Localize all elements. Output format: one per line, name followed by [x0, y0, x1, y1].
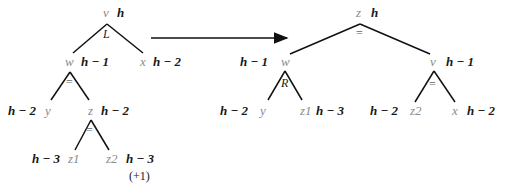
before-z-name: z: [87, 103, 93, 118]
before-w-height: h − 1: [81, 54, 109, 69]
after-w-name: w: [281, 54, 290, 69]
before-y-height: h − 2: [8, 103, 37, 118]
before-z-height: h − 2: [101, 103, 130, 118]
after-x-height: h − 2: [467, 103, 496, 118]
after-w-balance: R: [280, 76, 289, 90]
before-root-height: h: [117, 5, 124, 20]
before-y-name: y: [43, 103, 51, 118]
before-z2-name: z2: [105, 151, 118, 166]
after-x-name: x: [451, 103, 458, 118]
before-edge-w-z: [70, 72, 89, 100]
before-w-name: w: [65, 54, 74, 69]
after-edge-z-v: [360, 24, 430, 54]
after-root-name: z: [355, 5, 361, 20]
after-z2-height: h − 2: [370, 103, 399, 118]
after-edge-z-w: [290, 24, 360, 54]
before-edge-v-w: [73, 24, 107, 53]
rotation-diagram: v h L w h − 1 x h − 2 = h − 2 y z h − 2 …: [0, 0, 509, 186]
before-x-name: x: [139, 54, 146, 69]
after-root-balance: =: [356, 26, 363, 40]
after-v-balance: =: [429, 77, 436, 91]
after-v-name: v: [430, 54, 436, 69]
after-v-height: h − 1: [446, 54, 474, 69]
before-root-name: v: [103, 5, 109, 20]
before-z1-name: z1: [67, 151, 80, 166]
before-tree: v h L w h − 1 x h − 2 = h − 2 y z h − 2 …: [8, 5, 182, 183]
after-w-height: h − 1: [240, 54, 268, 69]
after-z1-name: z1: [299, 103, 312, 118]
before-z1-height: h − 3: [32, 151, 61, 166]
before-root-balance: L: [102, 27, 110, 41]
before-z2-height: h − 3: [126, 151, 155, 166]
after-edge-v-x: [434, 71, 455, 102]
after-z1-height: h − 3: [316, 103, 345, 118]
after-y-name: y: [258, 103, 266, 118]
after-y-height: h − 2: [220, 103, 249, 118]
after-tree: z h = h − 1 w v h − 1 R h − 2 y z1 h − 3…: [220, 5, 496, 118]
after-z2-name: z2: [409, 103, 422, 118]
before-edge-z-z2: [91, 120, 109, 150]
before-z-balance: =: [86, 123, 93, 137]
before-x-height: h − 2: [153, 54, 182, 69]
before-w-balance: =: [66, 75, 73, 89]
after-root-height: h: [371, 5, 378, 20]
before-z2-note: (+1): [129, 169, 150, 183]
before-edge-v-x: [107, 24, 143, 53]
